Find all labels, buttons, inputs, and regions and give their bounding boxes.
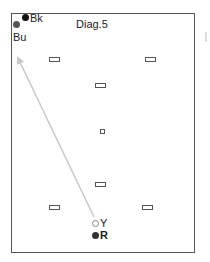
marker-y-label: Y (100, 218, 107, 229)
dash-marker (95, 182, 106, 187)
marker-r-icon (92, 232, 99, 239)
dash-marker (49, 57, 60, 62)
dash-marker (95, 83, 106, 88)
marker-bu-label: Bu (13, 32, 26, 43)
side-mark (205, 32, 207, 42)
dash-marker (49, 205, 60, 210)
marker-bu-icon (13, 21, 20, 28)
marker-r-label: R (100, 230, 108, 241)
dash-marker (145, 57, 156, 62)
marker-y-icon (92, 220, 99, 227)
marker-bk-label: Bk (30, 13, 43, 24)
dash-marker (142, 205, 153, 210)
dash-marker (100, 129, 105, 134)
marker-bk-icon (22, 14, 29, 21)
diagram-canvas: Diag.5 Bk Bu Y R (0, 0, 210, 262)
